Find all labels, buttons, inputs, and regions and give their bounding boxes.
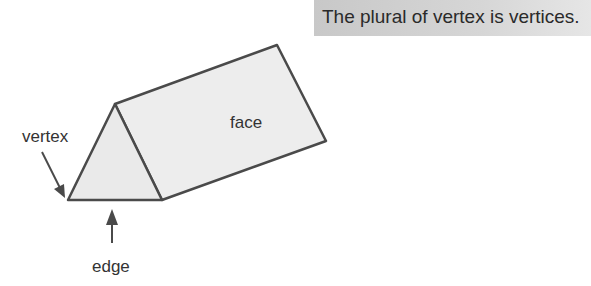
edge-label: edge (92, 257, 130, 276)
edge-arrow-icon (106, 209, 118, 243)
vertex-label: vertex (22, 127, 69, 146)
face-label: face (230, 113, 262, 132)
prism (68, 45, 326, 200)
vertex-arrow-icon (42, 152, 65, 198)
triangular-prism-diagram: face vertex edge (0, 0, 591, 286)
